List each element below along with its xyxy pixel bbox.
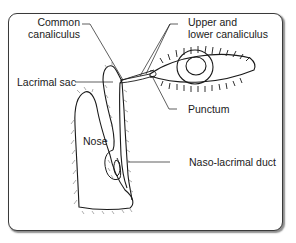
label-upper-lower-canaliculus: Upper and lower canaliculus — [188, 16, 268, 40]
eye — [150, 50, 255, 84]
label-punctum: Punctum — [188, 103, 229, 115]
label-upper-lower-line1: Upper and — [188, 16, 268, 28]
label-lacrimal-sac: Lacrimal sac — [17, 76, 76, 88]
label-nose: Nose — [83, 135, 108, 147]
label-common-canaliculus-line2: canaliculus — [20, 28, 80, 40]
label-nasolacrimal-duct: Naso-lacrimal duct — [189, 156, 276, 168]
label-common-canaliculus-line1: Common — [20, 16, 80, 28]
label-common-canaliculus: Common canaliculus — [20, 16, 80, 40]
label-upper-lower-line2: lower canaliculus — [188, 28, 268, 40]
